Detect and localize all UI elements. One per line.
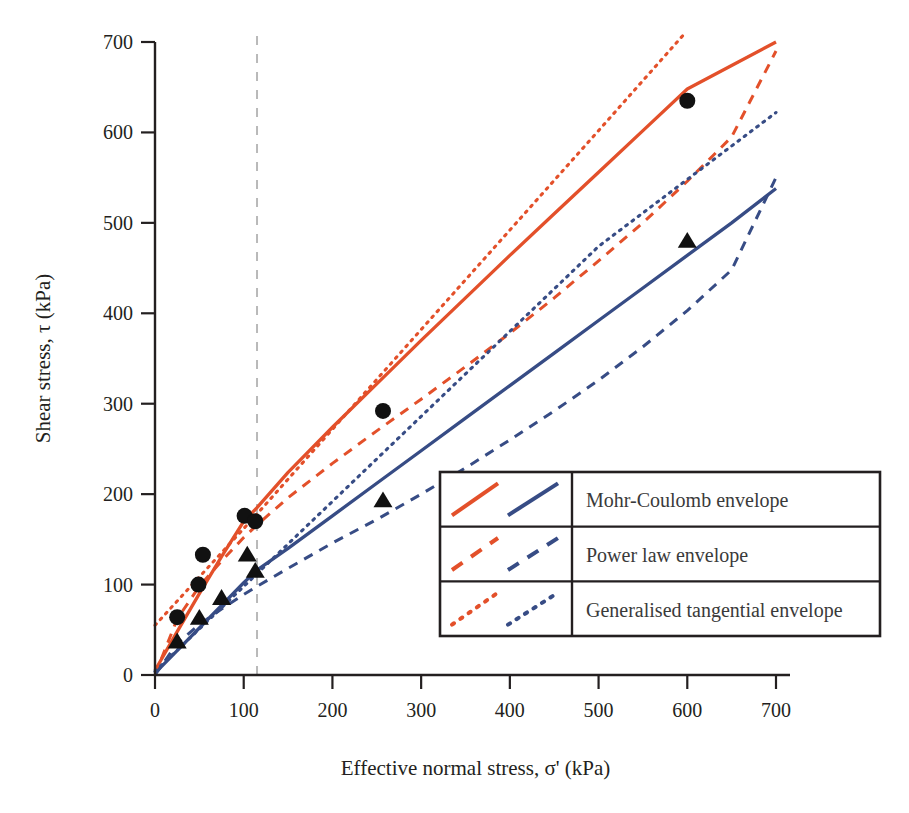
x-tick-label-0: 0 bbox=[150, 699, 160, 721]
y-tick-label-100: 100 bbox=[103, 574, 133, 596]
y-tick-label-0: 0 bbox=[123, 664, 133, 686]
y-axis-title: Shear stress, τ (kPa) bbox=[31, 274, 55, 443]
x-axis-title: Effective normal stress, σ' (kPa) bbox=[341, 756, 611, 780]
data-point-triangle bbox=[373, 491, 392, 507]
y-tick-label-500: 500 bbox=[103, 212, 133, 234]
x-tick-label-400: 400 bbox=[495, 699, 525, 721]
data-point-triangle bbox=[238, 546, 257, 562]
y-tick-label-600: 600 bbox=[103, 121, 133, 143]
y-tick-label-700: 700 bbox=[103, 31, 133, 53]
y-tick-label-200: 200 bbox=[103, 483, 133, 505]
x-tick-label-200: 200 bbox=[317, 699, 347, 721]
shear-stress-vs-normal-stress-chart: 0100200300400500600700010020030040050060… bbox=[0, 0, 909, 813]
data-point-circle bbox=[247, 513, 263, 529]
data-point-circle bbox=[190, 577, 206, 593]
data-point-triangle bbox=[678, 232, 697, 248]
y-tick-label-300: 300 bbox=[103, 393, 133, 415]
legend: Mohr-Coulomb envelopePower law envelopeG… bbox=[440, 472, 880, 636]
data-point-circle bbox=[679, 93, 695, 109]
x-tick-label-700: 700 bbox=[761, 699, 791, 721]
data-point-circle bbox=[195, 547, 211, 563]
x-tick-label-300: 300 bbox=[406, 699, 436, 721]
y-tick-label-400: 400 bbox=[103, 302, 133, 324]
x-tick-label-100: 100 bbox=[229, 699, 259, 721]
chart-figure: 0100200300400500600700010020030040050060… bbox=[0, 0, 909, 813]
x-tick-label-500: 500 bbox=[584, 699, 614, 721]
data-point-triangle bbox=[190, 609, 209, 625]
legend-label-1[interactable]: Power law envelope bbox=[586, 544, 748, 567]
data-point-circle bbox=[375, 403, 391, 419]
legend-label-0[interactable]: Mohr-Coulomb envelope bbox=[586, 489, 788, 512]
data-point-circle bbox=[169, 609, 185, 625]
legend-label-2[interactable]: Generalised tangential envelope bbox=[586, 599, 843, 622]
x-tick-label-600: 600 bbox=[672, 699, 702, 721]
